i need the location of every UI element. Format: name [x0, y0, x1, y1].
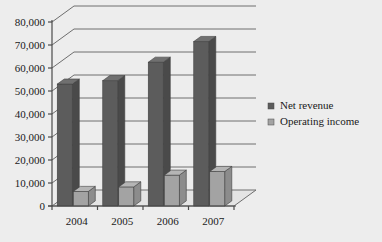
- legend-label: Operating income: [280, 115, 359, 127]
- legend-label: Net revenue: [280, 99, 334, 111]
- bar-side-face: [225, 166, 232, 206]
- y-axis-label: 20,000: [15, 154, 46, 166]
- y-axis-label: 0: [40, 200, 46, 212]
- bar-front: [194, 42, 209, 206]
- bar-front: [148, 62, 163, 206]
- bar-side-face: [72, 79, 79, 206]
- x-axis-label: 2004: [66, 215, 89, 227]
- bar-front: [103, 81, 118, 206]
- legend-square-marker-0: [268, 103, 274, 109]
- x-axis-label: 2006: [157, 215, 180, 227]
- bar-2004-net-revenue: [57, 79, 79, 206]
- y-axis-label: 80,000: [15, 16, 46, 28]
- bar-front: [57, 84, 72, 206]
- bar-side-face: [179, 170, 186, 206]
- y-axis-label: 30,000: [15, 131, 46, 143]
- y-axis-label: 40,000: [15, 108, 46, 120]
- bar-front: [164, 175, 179, 206]
- bar-2007-operating-income: [210, 166, 232, 206]
- bar-2004-operating-income: [73, 186, 95, 206]
- x-axis-label: 2005: [111, 215, 134, 227]
- legend-square-marker-1: [268, 119, 274, 125]
- x-axis-label: 2007: [202, 215, 225, 227]
- bar-front: [73, 192, 88, 206]
- y-axis-label: 50,000: [15, 85, 46, 97]
- y-axis-labels: 010,00020,00030,00040,00050,00060,00070,…: [15, 16, 46, 212]
- bar-2005-operating-income: [119, 182, 141, 206]
- y-axis-label: 10,000: [15, 177, 46, 189]
- column-chart: 010,00020,00030,00040,00050,00060,00070,…: [0, 0, 382, 242]
- chart-container: 010,00020,00030,00040,00050,00060,00070,…: [0, 0, 382, 242]
- bar-2006-operating-income: [164, 170, 186, 206]
- y-axis-label: 60,000: [15, 62, 46, 74]
- bar-front: [210, 172, 225, 207]
- bar-front: [119, 187, 134, 206]
- y-axis-label: 70,000: [15, 39, 46, 51]
